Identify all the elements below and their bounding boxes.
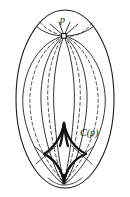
figure-container: p C(p) xyxy=(0,0,130,197)
point-p-label: p xyxy=(60,15,65,25)
geodesic-crown-right xyxy=(64,26,94,36)
geodesic-front-6 xyxy=(64,36,74,182)
geodesic-back-3 xyxy=(48,36,64,182)
geodesic-front-5 xyxy=(54,36,64,182)
geodesic-back-4 xyxy=(64,36,80,182)
geodesics-front-group xyxy=(23,22,106,184)
cut-locus-label: C(p) xyxy=(80,128,98,138)
geodesic-cut-locus-diagram xyxy=(0,0,130,197)
point-p-marker xyxy=(62,34,67,39)
point-p-marker-group xyxy=(62,34,67,39)
